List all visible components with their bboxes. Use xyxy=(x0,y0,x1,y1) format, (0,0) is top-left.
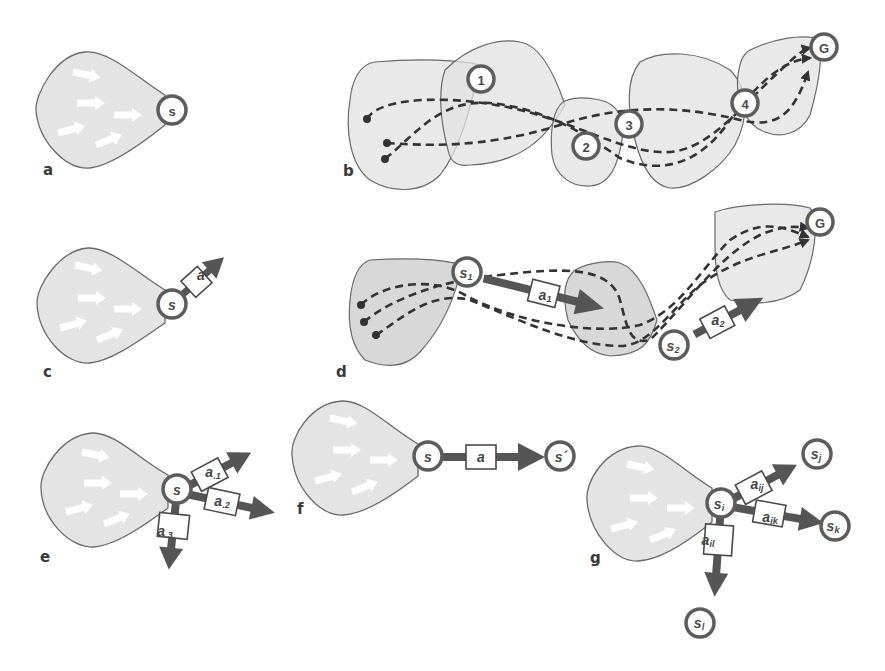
panel-a: s a xyxy=(36,52,186,179)
state-region xyxy=(41,433,168,547)
svg-text:4: 4 xyxy=(741,97,749,112)
state-region xyxy=(36,52,165,168)
svg-text:1: 1 xyxy=(477,73,484,88)
state-region xyxy=(37,248,165,363)
state-label: s xyxy=(168,104,175,119)
region-1 xyxy=(441,41,565,165)
state-label: s xyxy=(173,482,181,498)
panel-d: a1 a2 s1 s2 G d xyxy=(336,204,833,381)
subgoal-2: 2 xyxy=(573,133,599,159)
panel-label: b xyxy=(343,162,354,180)
svg-text:G: G xyxy=(819,41,829,56)
action-label: a xyxy=(477,449,485,465)
action-label: a xyxy=(197,267,205,283)
target-node-sk: sk xyxy=(821,512,849,540)
panel-label: g xyxy=(590,549,601,567)
figure-canvas: s a 1 2 3 4 xyxy=(0,0,885,671)
panel-label: e xyxy=(40,548,50,566)
panel-label: c xyxy=(43,363,52,381)
panel-label: f xyxy=(297,500,304,518)
state-node-s2: s2 xyxy=(660,331,688,359)
target-node-sl: sl xyxy=(686,609,714,637)
goal-node: G xyxy=(807,209,833,235)
panel-c: a s c xyxy=(37,248,231,381)
state-node-s1: s1 xyxy=(453,258,481,286)
action-arrow-ail: ail xyxy=(701,516,735,598)
panel-g: aij aik ail si sj xyxy=(587,440,849,637)
next-state-label: s´ xyxy=(555,449,569,465)
target-node-sj: sj xyxy=(803,440,831,468)
subgoal-3: 3 xyxy=(616,111,642,137)
goal-node: G xyxy=(811,34,837,60)
action-arrow: a xyxy=(440,443,545,471)
panel-label: a xyxy=(43,161,53,179)
panel-f: a s s´ f xyxy=(292,401,574,518)
state-region xyxy=(292,401,418,515)
state-label: s xyxy=(424,449,432,465)
svg-text:G: G xyxy=(815,216,825,231)
region-4 xyxy=(737,37,820,135)
subgoal-4: 4 xyxy=(732,90,758,116)
panel-label: d xyxy=(336,363,347,381)
subgoal-1: 1 xyxy=(468,66,494,92)
action-arrow-a3: a.3 xyxy=(154,502,191,571)
svg-text:2: 2 xyxy=(582,140,589,155)
svg-text:3: 3 xyxy=(625,118,632,133)
state-node-si: si xyxy=(707,489,735,517)
region-s1 xyxy=(349,259,462,365)
action-arrow-a1: a.1 xyxy=(182,442,257,497)
panel-b: 1 2 3 4 G b xyxy=(343,34,837,190)
panel-e: a.1 a.2 a.3 s e xyxy=(40,433,277,571)
state-label: s xyxy=(168,297,176,313)
